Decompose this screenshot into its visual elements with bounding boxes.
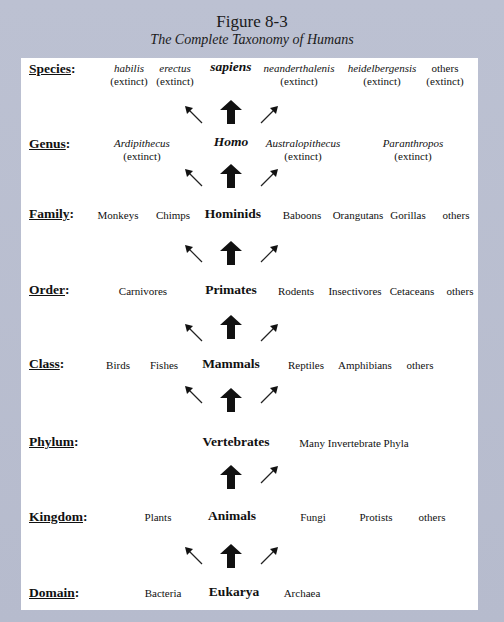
order-cetaceans: Cetaceans bbox=[390, 285, 435, 298]
rank-label-genus: Genus: bbox=[29, 136, 70, 152]
figure-subtitle: The Complete Taxonomy of Humans bbox=[0, 32, 504, 48]
order-others: others bbox=[447, 285, 474, 298]
figure-title: Figure 8-3 bbox=[0, 12, 504, 32]
domain-archaea: Archaea bbox=[284, 587, 321, 600]
arrow-up-right-icon bbox=[258, 104, 280, 126]
family-orangutans: Orangutans bbox=[333, 209, 384, 222]
rank-label-domain: Domain: bbox=[29, 585, 79, 601]
arrow-up-left-icon bbox=[183, 322, 205, 344]
species-habilis: habilis(extinct) bbox=[110, 62, 147, 88]
species-erectus: erectus(extinct) bbox=[156, 62, 193, 88]
domain-eukarya: Eukarya bbox=[209, 585, 259, 599]
genus-australopithecus: Australopithecus(extinct) bbox=[266, 137, 341, 163]
family-baboons: Baboons bbox=[283, 209, 322, 222]
rank-label-order: Order: bbox=[29, 282, 70, 298]
class-mammals: Mammals bbox=[202, 357, 260, 371]
class-reptiles: Reptiles bbox=[288, 359, 324, 372]
rank-label-phylum: Phylum: bbox=[29, 434, 79, 450]
kingdom-fungi: Fungi bbox=[300, 511, 326, 524]
arrow-up-icon bbox=[220, 315, 242, 339]
arrow-up-left-icon bbox=[183, 104, 205, 126]
genus-paranthropos: Paranthropos(extinct) bbox=[383, 137, 444, 163]
family-monkeys: Monkeys bbox=[98, 209, 139, 222]
family-others: others bbox=[443, 209, 470, 222]
species-sapiens: sapiens bbox=[210, 60, 251, 74]
kingdom-plants: Plants bbox=[145, 511, 172, 524]
species-heidelbergensis: heidelbergensis(extinct) bbox=[348, 62, 417, 88]
arrow-up-icon bbox=[220, 164, 242, 188]
arrow-up-right-icon bbox=[258, 464, 280, 486]
kingdom-protists: Protists bbox=[359, 511, 392, 524]
family-hominids: Hominids bbox=[205, 207, 261, 221]
kingdom-animals: Animals bbox=[208, 509, 256, 523]
domain-bacteria: Bacteria bbox=[145, 587, 182, 600]
class-amphibians: Amphibians bbox=[338, 359, 392, 372]
species-others: others(extinct) bbox=[426, 62, 463, 88]
arrow-up-right-icon bbox=[258, 243, 280, 265]
order-carnivores: Carnivores bbox=[119, 285, 167, 298]
class-birds: Birds bbox=[106, 359, 130, 372]
arrow-up-left-icon bbox=[183, 167, 205, 189]
family-gorillas: Gorillas bbox=[390, 209, 425, 222]
genus-homo: Homo bbox=[214, 135, 249, 149]
rank-label-kingdom: Kingdom: bbox=[29, 509, 88, 525]
kingdom-others: others bbox=[419, 511, 446, 524]
rank-label-class: Class: bbox=[29, 356, 64, 372]
arrow-up-icon bbox=[220, 465, 242, 489]
rank-label-species: Species: bbox=[29, 61, 76, 77]
phylum-vertebrates: Vertebrates bbox=[203, 435, 270, 449]
arrow-up-left-icon bbox=[183, 243, 205, 265]
species-neanderthalenis: neanderthalenis(extinct) bbox=[264, 62, 335, 88]
arrow-up-left-icon bbox=[183, 545, 205, 567]
order-primates: Primates bbox=[205, 283, 257, 297]
rank-label-family: Family: bbox=[29, 206, 74, 222]
order-rodents: Rodents bbox=[278, 285, 314, 298]
class-fishes: Fishes bbox=[150, 359, 178, 372]
arrow-up-right-icon bbox=[258, 545, 280, 567]
arrow-up-left-icon bbox=[183, 384, 205, 406]
arrow-up-icon bbox=[220, 544, 242, 568]
family-chimps: Chimps bbox=[156, 209, 190, 222]
class-others: others bbox=[407, 359, 434, 372]
phylum-invertebrates: Many Invertebrate Phyla bbox=[299, 437, 408, 450]
arrow-up-icon bbox=[220, 100, 242, 124]
arrow-up-right-icon bbox=[258, 167, 280, 189]
genus-ardipithecus: Ardipithecus(extinct) bbox=[114, 137, 170, 163]
order-insectivores: Insectivores bbox=[328, 285, 381, 298]
arrow-up-icon bbox=[220, 388, 242, 412]
arrow-up-right-icon bbox=[258, 384, 280, 406]
arrow-up-right-icon bbox=[258, 322, 280, 344]
arrow-up-icon bbox=[220, 241, 242, 265]
